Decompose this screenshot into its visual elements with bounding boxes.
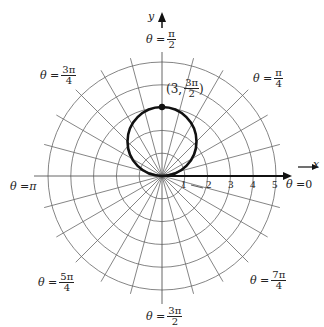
angle-label-3pi-over-2: θ = 3π2: [146, 306, 182, 327]
grid-spoke: [56, 115, 162, 176]
grid-spoke: [130, 176, 162, 294]
radial-tick-4: 4: [250, 178, 256, 190]
x-axis-label: x: [313, 158, 319, 171]
angle-label-pi-over-2: θ = π2: [146, 29, 176, 50]
marked-point: [159, 104, 165, 110]
angle-label-3pi-over-4: θ = 3π4: [40, 65, 76, 86]
y-axis-arrow-icon: [158, 12, 166, 22]
grid-spoke: [76, 90, 162, 176]
grid-spoke: [162, 58, 194, 176]
grid-spoke: [162, 176, 223, 282]
grid-spoke: [162, 90, 248, 176]
radial-tick-3: 3: [228, 178, 234, 190]
angle-label-pi-over-4: θ = π4: [253, 68, 283, 89]
radial-tick-1: 1: [181, 178, 187, 190]
y-axis-label: y: [148, 10, 154, 23]
angle-label-0: θ = 0: [286, 178, 312, 191]
radial-tick-2: 2: [206, 178, 212, 190]
angle-label-5pi-over-4: θ = 5π4: [38, 272, 74, 293]
grid-spoke: [162, 115, 268, 176]
grid-spoke: [101, 176, 162, 282]
grid-spoke: [76, 176, 162, 262]
point-label: (3, 3π2 ): [166, 78, 204, 99]
angle-label-7pi-over-4: θ = 7π4: [250, 270, 286, 291]
grid-spoke: [56, 176, 162, 237]
angle-label-pi: θ = π: [10, 180, 37, 193]
grid-spoke: [130, 58, 162, 176]
grid-spoke: [162, 176, 280, 208]
grid-spoke: [44, 176, 162, 208]
radial-tick-5: 5: [272, 178, 278, 190]
grid-spoke: [162, 176, 194, 294]
